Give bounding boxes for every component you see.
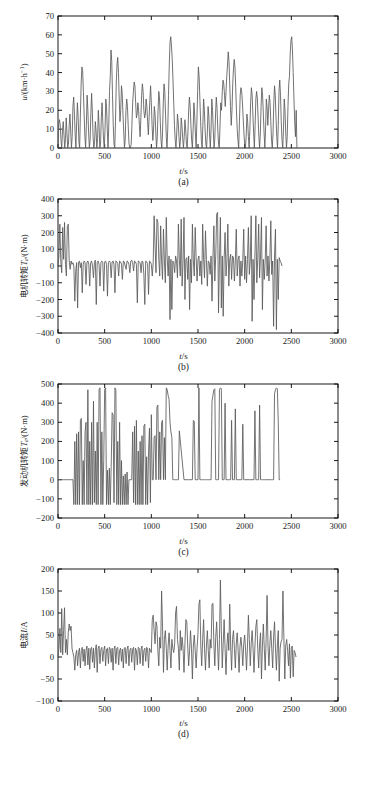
svg-text:2500: 2500 [283,521,300,531]
y-axis-label-d: 电流I/A [18,621,29,648]
svg-text:100: 100 [41,244,54,254]
svg-text:400: 400 [41,398,54,408]
svg-text:0: 0 [50,652,54,662]
svg-text:1500: 1500 [189,151,206,161]
panel-caption-d: (d) [0,729,367,739]
panel-a: 050010001500200025003000010203040506070 … [0,0,367,187]
svg-text:20: 20 [45,105,54,115]
x-axis-label-c: t/s [0,536,367,546]
y-axis-label-a: u/(km·h−1) [18,63,29,100]
svg-text:200: 200 [41,564,54,574]
svg-text:100: 100 [41,456,54,466]
y-axis-label-b: 电机转矩Te/(N·m) [18,234,29,297]
svg-text:0: 0 [56,521,60,531]
svg-text:50: 50 [45,630,54,640]
panel-d: 050010001500200025003000−100−50050100150… [0,557,367,739]
y-axis-label-c: 发动机转矩Te/(N·m) [18,415,29,486]
svg-text:1500: 1500 [189,521,206,531]
svg-text:−100: −100 [36,696,54,706]
svg-text:10: 10 [45,124,54,134]
plot-d-area: 050010001500200025003000−100−50050100150… [0,557,367,717]
svg-text:−200: −200 [36,295,54,305]
svg-text:50: 50 [45,49,54,59]
svg-text:2500: 2500 [283,336,300,346]
svg-text:3000: 3000 [329,521,346,531]
svg-text:200: 200 [41,228,54,238]
plot-c-area: 050010001500200025003000−200−10001002003… [0,372,367,535]
plot-a-area: 050010001500200025003000010203040506070 … [0,0,367,165]
svg-text:1000: 1000 [143,521,160,531]
x-axis-label-a: t/s [0,166,367,176]
svg-text:3000: 3000 [329,151,346,161]
svg-text:1000: 1000 [143,151,160,161]
svg-text:200: 200 [41,436,54,446]
panel-caption-b: (b) [0,362,367,372]
svg-text:1500: 1500 [189,336,206,346]
panel-caption-a: (a) [0,177,367,187]
panel-c: 050010001500200025003000−200−10001002003… [0,372,367,557]
svg-text:−300: −300 [36,311,54,321]
chart-d-svg: 050010001500200025003000−100−50050100150… [0,557,367,717]
chart-a-svg: 050010001500200025003000010203040506070 [0,0,367,165]
svg-text:0: 0 [50,143,54,153]
svg-text:2000: 2000 [236,521,253,531]
svg-text:3000: 3000 [329,336,346,346]
svg-text:3000: 3000 [329,704,346,714]
chart-c-svg: 050010001500200025003000−200−10001002003… [0,372,367,535]
svg-text:−100: −100 [36,278,54,288]
svg-text:−100: −100 [36,494,54,504]
svg-text:500: 500 [41,379,54,389]
svg-text:1000: 1000 [143,336,160,346]
svg-text:500: 500 [98,704,111,714]
svg-text:1500: 1500 [189,704,206,714]
svg-text:0: 0 [50,261,54,271]
svg-text:−50: −50 [41,674,54,684]
svg-text:2000: 2000 [236,704,253,714]
svg-text:2500: 2500 [283,151,300,161]
svg-text:60: 60 [45,30,54,40]
panel-caption-c: (c) [0,547,367,557]
svg-text:2500: 2500 [283,704,300,714]
svg-text:0: 0 [56,336,60,346]
svg-text:1000: 1000 [143,704,160,714]
svg-text:300: 300 [41,417,54,427]
plot-b-area: 050010001500200025003000−400−300−200−100… [0,187,367,350]
svg-text:30: 30 [45,86,54,96]
x-axis-label-b: t/s [0,351,367,361]
svg-text:400: 400 [41,194,54,204]
svg-text:500: 500 [98,151,111,161]
svg-text:500: 500 [98,521,111,531]
svg-text:2000: 2000 [236,336,253,346]
svg-text:−200: −200 [36,513,54,523]
svg-text:70: 70 [45,11,54,21]
svg-text:150: 150 [41,586,54,596]
svg-text:0: 0 [56,151,60,161]
svg-text:300: 300 [41,211,54,221]
figure-container: 050010001500200025003000010203040506070 … [0,0,367,793]
panel-b: 050010001500200025003000−400−300−200−100… [0,187,367,372]
svg-text:0: 0 [50,475,54,485]
svg-text:500: 500 [98,336,111,346]
chart-b-svg: 050010001500200025003000−400−300−200−100… [0,187,367,350]
svg-text:40: 40 [45,68,54,78]
svg-text:−400: −400 [36,328,54,338]
x-axis-label-d: t/s [0,718,367,728]
svg-text:0: 0 [56,704,60,714]
svg-text:100: 100 [41,608,54,618]
svg-text:2000: 2000 [236,151,253,161]
